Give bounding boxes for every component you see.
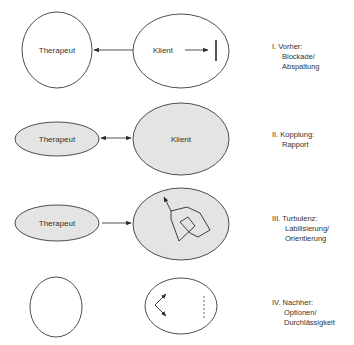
therapist-label: Therapeut	[39, 135, 76, 144]
stage-3-turbulenz: Therapeut	[15, 188, 229, 260]
stage-1-vorher: Therapeut Klient	[22, 12, 229, 88]
stage-subtitle: Durchlässigkeit	[272, 318, 335, 328]
stage-subtitle: Rapport	[272, 140, 314, 150]
stage-3-label: III. Turbulenz: Labilisierung/ Orientier…	[272, 214, 329, 244]
stage-title: Nachher:	[283, 298, 313, 307]
stage-number: IV.	[272, 298, 280, 307]
stage-number: III.	[272, 214, 280, 223]
stage-title: Turbulenz:	[282, 214, 317, 223]
stage-subtitle: Optionen/	[272, 308, 335, 318]
stage-title: Vorher:	[278, 42, 302, 51]
stage-title: Kopplung:	[280, 130, 314, 139]
client-label: Klient	[153, 46, 174, 55]
stage-4-label: IV. Nachher: Optionen/ Durchlässigkeit	[272, 298, 335, 328]
stage-4-nachher	[30, 277, 217, 337]
stage-1-label: I. Vorher: Blockade/ Abspaltung	[272, 42, 320, 72]
stage-subtitle: Orientierung	[272, 234, 329, 244]
stage-subtitle: Blockade/	[272, 52, 320, 62]
stage-subtitle: Labilisierung/	[272, 224, 329, 234]
stage-2-kopplung: Therapeut Klient	[15, 103, 229, 175]
client-label: Klient	[171, 135, 192, 144]
client-ellipse	[133, 14, 229, 88]
stage-subtitle: Abspaltung	[272, 62, 320, 72]
therapist-label: Therapeut	[39, 219, 76, 228]
stage-2-label: II. Kopplung: Rapport	[272, 130, 314, 150]
therapist-label: Therapeut	[39, 46, 76, 55]
therapist-circle	[30, 277, 82, 337]
client-ellipse	[133, 188, 229, 260]
stage-number: II.	[272, 130, 278, 139]
stage-number: I.	[272, 42, 276, 51]
